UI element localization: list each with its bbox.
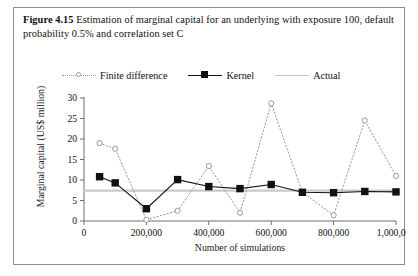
y-axis-tick-group: 051015202530 [67,92,84,226]
y-tick-label: 30 [67,92,77,103]
y-tick-label: 0 [72,215,77,226]
finite-difference-point [237,210,242,215]
x-tick-label: 200,000 [131,227,162,238]
kernel-point [205,183,212,190]
finite-difference-line [100,103,396,219]
chart-svg: 051015202530 0200,000400,000600,000800,0… [14,53,406,265]
kernel-line [100,177,396,209]
finite-difference-point [362,118,367,123]
kernel-point [268,181,275,188]
kernel-point [299,189,306,196]
y-tick-label: 20 [67,133,77,144]
figure-number: Figure 4.15 [23,14,74,25]
kernel-point [392,188,399,195]
kernel-point [112,179,119,186]
y-tick-label: 10 [67,174,77,185]
finite-difference-point [269,101,274,106]
finite-difference-point [175,208,180,213]
kernel-point [361,188,368,195]
kernel-point [143,205,150,212]
y-tick-label: 5 [72,195,77,206]
x-tick-label: 1,000,000 [377,227,406,238]
figure-frame: Figure 4.15 Estimation of marginal capit… [13,7,405,265]
finite-difference-point [144,217,149,222]
x-tick-label: 0 [82,227,87,238]
x-tick-label: 600,000 [256,227,287,238]
kernel-point [330,189,337,196]
figure-caption-text: Estimation of marginal capital for an un… [23,14,394,39]
finite-difference-point [113,146,118,151]
y-tick-label: 25 [67,113,77,124]
kernel-point [96,173,103,180]
x-tick-label: 800,000 [318,227,349,238]
series-finite-difference [97,101,399,223]
finite-difference-point [206,163,211,168]
kernel-point [236,185,243,192]
finite-difference-point [331,213,336,218]
x-axis-tick-group: 0200,000400,000600,000800,0001,000,000 [82,221,406,238]
figure-caption: Figure 4.15 Estimation of marginal capit… [23,13,397,41]
finite-difference-point [393,173,398,178]
kernel-point [174,176,181,183]
y-tick-label: 15 [67,154,77,165]
series-kernel [96,173,400,212]
x-tick-label: 400,000 [193,227,224,238]
chart-plot-area: Finite difference Kernel Actual Marginal… [14,53,406,265]
finite-difference-point [97,141,102,146]
